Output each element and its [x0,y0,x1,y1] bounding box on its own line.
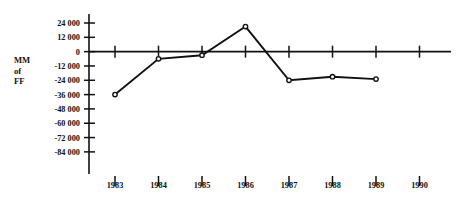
data-point-markers [113,24,378,96]
x-axis-tick-label: 1989 [368,181,385,190]
y-axis-tick-label: -12 000 [54,62,80,71]
chart-plot-area: 24 00012 0000-12 000-24 000-36 000-48 00… [0,0,457,209]
data-point-marker [200,53,204,57]
y-axis-tick-label: -84 000 [54,148,80,157]
x-axis-tick-label: 1990 [411,181,428,190]
data-point-marker [243,24,247,28]
y-axis-title-line: of [14,66,21,76]
y-axis-tick-labels: 24 00012 0000-12 000-24 000-36 000-48 00… [54,19,80,157]
series-polyline [115,27,376,95]
y-axis-tick-label: 0 [76,48,80,57]
y-axis-tick-label: -60 000 [54,119,80,128]
data-series-line [115,27,376,95]
data-point-marker [287,78,291,82]
data-point-marker [374,77,378,81]
y-axis-tick-label: -36 000 [54,91,80,100]
x-axis-tick-label: 1985 [194,181,211,190]
data-point-marker [156,57,160,61]
y-axis-title: MMofFF [14,55,30,86]
y-axis-tick-label: -72 000 [54,134,80,143]
x-axis-tick-label: 1984 [150,181,167,190]
data-point-marker [330,75,334,79]
x-axis-tick-label: 1987 [281,181,298,190]
y-axis-tick-label: 24 000 [57,19,80,28]
x-axis-zero-line [89,46,451,186]
y-axis [84,14,95,174]
x-axis-tick-label: 1988 [324,181,341,190]
y-axis-tick-label: -24 000 [54,76,80,85]
line-chart: 24 00012 0000-12 000-24 000-36 000-48 00… [0,0,457,209]
x-axis-tick-label: 1983 [107,181,124,190]
y-axis-title-line: MM [14,55,30,65]
x-axis-tick-label: 1986 [237,181,254,190]
y-axis-tick-label: 12 000 [57,33,80,42]
y-axis-tick-label: -48 000 [54,105,80,114]
y-axis-title-line: FF [14,76,25,86]
x-axis-tick-labels: 19831984198519861987198819891990 [107,181,428,190]
data-point-marker [113,92,117,96]
